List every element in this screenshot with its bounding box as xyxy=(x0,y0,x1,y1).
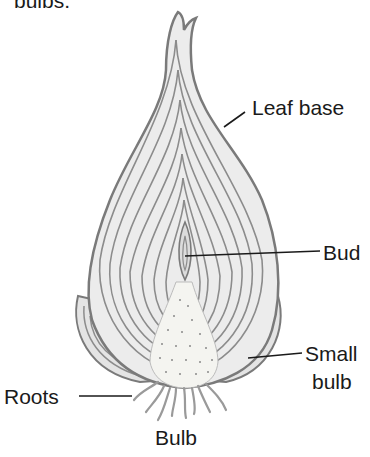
label-small-bulb-line2: bulb xyxy=(312,371,352,392)
leader-leaf-base xyxy=(224,112,245,127)
label-small-bulb-line1: Small xyxy=(305,343,358,364)
diagram-title: Bulb xyxy=(155,427,197,448)
label-leaf-base: Leaf base xyxy=(252,97,344,118)
label-bud: Bud xyxy=(323,242,360,263)
label-roots: Roots xyxy=(4,386,59,407)
